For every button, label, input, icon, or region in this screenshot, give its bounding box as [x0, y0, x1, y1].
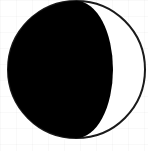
moon-phase-canvas [0, 0, 148, 151]
moon-phase-icon [0, 0, 148, 151]
